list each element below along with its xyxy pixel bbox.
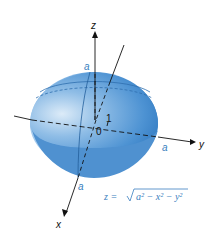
a-label-x: a (78, 181, 84, 192)
origin-label: 0 (96, 126, 102, 137)
y-axis-back (14, 116, 32, 120)
hemisphere-diagram: z y x 0 1 a a a z = a² − x² − y² (0, 0, 217, 234)
x-axis (66, 178, 78, 213)
z-axis-label: z (90, 20, 96, 31)
y-axis-label: y (198, 139, 205, 150)
equation: z = a² − x² − y² (103, 189, 188, 202)
a-label-z: a (84, 61, 90, 72)
z-arrow-icon (92, 31, 98, 38)
equation-radicand: a² − x² − y² (136, 191, 183, 202)
hemisphere-surface (30, 72, 158, 178)
a-label-y: a (162, 142, 168, 153)
equation-lhs: z = (103, 191, 117, 202)
x-axis-label: x (55, 219, 62, 230)
y-arrow-icon (190, 139, 196, 145)
unit-label: 1 (106, 113, 112, 124)
